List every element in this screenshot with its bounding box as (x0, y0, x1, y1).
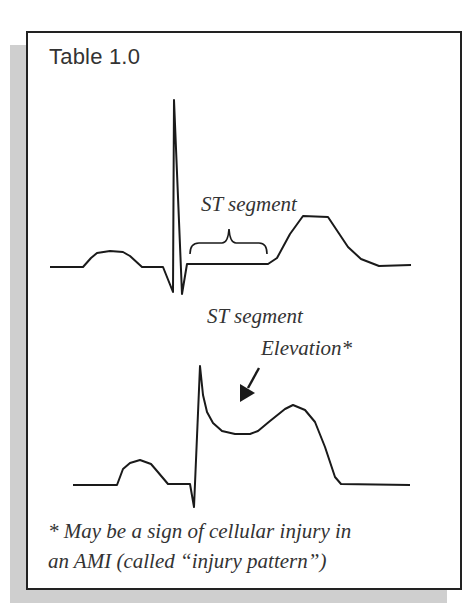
pointer-arrow-shaft (248, 368, 259, 388)
st-segment-brace (190, 229, 267, 254)
footnote: * May be a sign of cellular injury in an… (48, 516, 351, 576)
footnote-line-2: an AMI (called “injury pattern”) (48, 546, 351, 576)
st-segment-label: ST segment (201, 192, 297, 217)
st-elevation-label-line1: ST segment (207, 304, 303, 329)
footnote-line-1: * May be a sign of cellular injury in (48, 516, 351, 546)
st-elevation-label-line2: Elevation* (261, 336, 352, 361)
